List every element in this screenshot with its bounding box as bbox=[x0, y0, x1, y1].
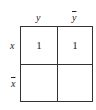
col-label-y-bar: y bbox=[72, 13, 76, 23]
cell-x-ybar: 1 bbox=[57, 40, 93, 51]
col-label-y: y bbox=[36, 13, 40, 23]
row-divider bbox=[20, 64, 93, 65]
row-label-x: x bbox=[10, 41, 14, 51]
row-label-x-bar: x bbox=[11, 79, 15, 89]
cell-x-y: 1 bbox=[21, 40, 57, 51]
